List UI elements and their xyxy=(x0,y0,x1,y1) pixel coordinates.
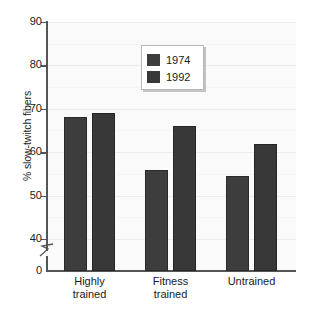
legend-entry-1974: 1974 xyxy=(147,51,203,68)
gridline-70 xyxy=(47,109,296,110)
legend-label-1974: 1974 xyxy=(166,54,190,66)
y-tick-label-80: 80 xyxy=(16,58,42,70)
category-label-line: trained xyxy=(123,288,219,301)
bar-1992-fitness-trained xyxy=(173,126,196,271)
category-label-line: Untrained xyxy=(204,275,300,288)
legend-label-1992: 1992 xyxy=(166,71,190,83)
legend: 1974 1992 xyxy=(141,45,204,90)
legend-swatch-1974 xyxy=(147,54,160,66)
bar-1974-highly-trained xyxy=(64,117,87,271)
bar-1992-highly-trained xyxy=(92,113,115,271)
y-tick-label-0: 0 xyxy=(16,264,42,276)
bar-1992-untrained xyxy=(254,144,277,271)
bar-chart-figure: % slow-twitch fibers 9080706050400 Highl… xyxy=(0,0,310,311)
y-tick-label-50: 50 xyxy=(16,189,42,201)
axis-break-icon xyxy=(39,243,56,259)
bar-1974-untrained xyxy=(226,176,249,271)
gridline-90 xyxy=(47,22,296,23)
y-tick-label-40: 40 xyxy=(16,232,42,244)
bar-1974-fitness-trained xyxy=(145,170,168,271)
legend-entry-1992: 1992 xyxy=(147,68,203,85)
y-tick-label-70: 70 xyxy=(16,102,42,114)
y-axis-line xyxy=(46,21,48,251)
legend-swatch-1992 xyxy=(147,71,160,83)
y-tick-label-60: 60 xyxy=(16,145,42,157)
y-tick-label-90: 90 xyxy=(16,15,42,27)
category-label-untrained: Untrained xyxy=(204,275,300,288)
